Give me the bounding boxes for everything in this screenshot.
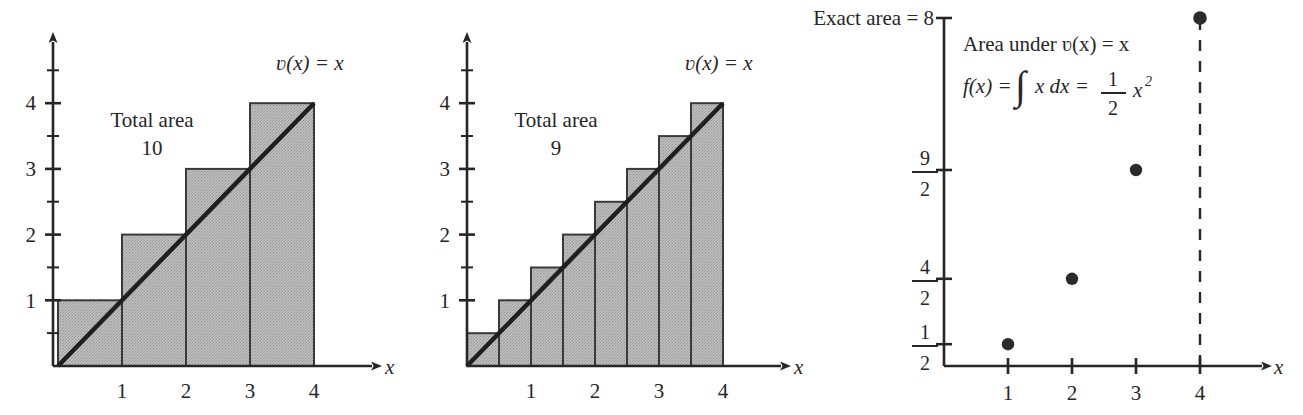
y-tick-label-left-1: 1	[26, 289, 37, 313]
bar-left-3	[186, 169, 250, 366]
bar-middle-4	[563, 235, 595, 366]
x-tick-label-right-2: 2	[1067, 381, 1078, 405]
x-tick-label-left-3: 3	[245, 379, 256, 403]
data-point-1	[1002, 338, 1014, 350]
y-tick-label-right-4over2: 4 2	[912, 256, 938, 309]
panel-right: 9 2 4 2 1 2 x	[813, 6, 1284, 405]
x-tick-label-middle-1: 1	[526, 379, 537, 403]
formula-lhs: f(x) =	[963, 74, 1012, 98]
integral-sign: ∫	[1012, 63, 1029, 110]
x-tick-label-left-1: 1	[117, 379, 128, 403]
x-tick-label-left-2: 2	[181, 379, 192, 403]
y-tick-label-middle-4: 4	[440, 91, 451, 115]
svg-text:2: 2	[920, 352, 930, 374]
data-point-2	[1066, 273, 1078, 285]
function-label-left: ʋ(x) = x	[276, 51, 344, 75]
data-point-3	[1130, 164, 1142, 176]
bar-left-4	[250, 103, 314, 366]
total-area-value-left: 10	[142, 136, 163, 160]
x-axis-label-middle: x	[793, 355, 804, 379]
bar-middle-8	[691, 103, 723, 366]
formula-power-base: x	[1132, 78, 1143, 102]
svg-text:4: 4	[920, 256, 930, 278]
bar-middle-7	[659, 136, 691, 366]
function-label-middle: ʋ(x) = x	[685, 51, 753, 75]
scatter-points-right	[1002, 11, 1207, 350]
x-axis-label-left: x	[384, 355, 395, 379]
y-tick-label-middle-2: 2	[440, 223, 451, 247]
svg-text:2: 2	[920, 178, 930, 200]
formula-power-exponent: 2	[1145, 74, 1152, 89]
figure-root: 4 3 2 1 x 1 2 3 4 Total area 10 ʋ(x) = x	[0, 0, 1303, 415]
x-tick-label-right-1: 1	[1003, 381, 1014, 405]
x-axis-label-right: x	[1273, 355, 1284, 379]
exact-area-label: Exact area = 8	[813, 6, 934, 30]
y-tick-label-middle-3: 3	[440, 157, 451, 181]
figure-canvas: 4 3 2 1 x 1 2 3 4 Total area 10 ʋ(x) = x	[0, 0, 1303, 415]
formula-coef-den: 2	[1108, 97, 1118, 119]
y-tick-label-left-4: 4	[26, 91, 37, 115]
formula-integrand: x dx =	[1034, 74, 1089, 98]
y-tick-label-left-3: 3	[26, 157, 37, 181]
x-tick-label-middle-2: 2	[590, 379, 601, 403]
x-tick-label-right-3: 3	[1131, 381, 1142, 405]
y-tick-label-middle-1: 1	[440, 289, 451, 313]
total-area-value-middle: 9	[551, 136, 562, 160]
y-tick-label-left-2: 2	[26, 223, 37, 247]
bar-left-2	[122, 235, 186, 366]
panel-left: 4 3 2 1 x 1 2 3 4 Total area 10 ʋ(x) = x	[26, 42, 396, 403]
total-area-label-middle: Total area	[514, 108, 598, 132]
bar-middle-5	[595, 202, 627, 366]
area-under-label: Area under ʋ(x) = x	[963, 32, 1130, 56]
svg-text:2: 2	[920, 287, 930, 309]
svg-text:1: 1	[920, 321, 930, 343]
formula-coef-num: 1	[1108, 68, 1118, 90]
panel-middle: 4 3 2 1 x 1 2 3 4 Total area 9 ʋ(x) = x	[440, 42, 805, 403]
y-tick-label-right-1over2: 1 2	[912, 321, 938, 374]
svg-text:9: 9	[920, 147, 930, 169]
x-tick-label-left-4: 4	[309, 379, 320, 403]
bar-middle-2	[499, 300, 531, 366]
x-tick-label-middle-3: 3	[654, 379, 665, 403]
antiderivative-formula: f(x) = ∫ x dx = 1 2 x 2	[963, 63, 1152, 119]
y-tick-label-right-9over2: 9 2	[912, 147, 938, 200]
total-area-label-left: Total area	[110, 108, 194, 132]
data-point-4	[1193, 11, 1207, 25]
x-tick-label-middle-4: 4	[718, 379, 729, 403]
x-tick-label-right-4: 4	[1195, 381, 1206, 405]
